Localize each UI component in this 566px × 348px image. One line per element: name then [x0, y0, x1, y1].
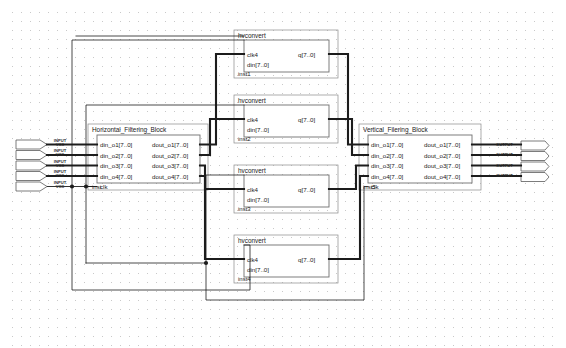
input-pin-2-power: VCC: [48, 153, 72, 157]
input-pin-5-power: VCC: [48, 185, 72, 189]
horizontal-output-2: dout_o2[7..0]: [152, 152, 188, 159]
input-pin-4-power: VCC: [48, 174, 72, 178]
vertical-input-3: din_o3[7..0]: [371, 162, 403, 169]
clock-junction-dots: [70, 184, 208, 265]
hvconvert-4-instance: inst4: [238, 276, 251, 283]
output-pin-3-type: OUTPUT: [496, 164, 513, 168]
horizontal-block-instance: inst: [92, 184, 101, 191]
schematic-canvas: INPUT VCC INPUT VCC INPUT VCC INPUT VCC …: [0, 0, 566, 348]
vertical-input-2: din_o2[7..0]: [371, 152, 403, 159]
hvconvert-1-input-clk4: clk4: [247, 51, 258, 58]
output-pin-1-type: OUTPUT: [496, 143, 513, 147]
hvconvert-2-input-din: din[7..0]: [247, 126, 269, 133]
horizontal-input-3: din_o3[7..0]: [100, 162, 132, 169]
hvconvert-3-title: hvconvert: [238, 167, 266, 174]
horizontal-output-4: dout_o4[7..0]: [152, 173, 188, 180]
hvconvert-1-input-din: din[7..0]: [247, 61, 269, 68]
hvconvert-1-output-q: q[7..0]: [298, 51, 315, 58]
output-pin-4-type: OUTPUT: [496, 174, 513, 178]
output-pin-shapes: [521, 141, 549, 182]
hvconvert-to-vertical-buses: [329, 54, 368, 259]
hvconvert-3-input-clk4: clk4: [247, 186, 258, 193]
vertical-block-title: Vertical_Filering_Block: [363, 126, 428, 133]
vertical-to-output-buses: [472, 145, 521, 177]
input-pin-3-power: VCC: [48, 164, 72, 168]
hvconvert-2-instance: inst2: [238, 136, 251, 143]
input-pin-shapes: [16, 140, 47, 191]
schematic-drawing: [0, 0, 566, 348]
horizontal-to-hvconvert-buses: [200, 54, 244, 259]
hvconvert-4-input-clk4: clk4: [247, 256, 258, 263]
horizontal-input-2: din_o2[7..0]: [100, 152, 132, 159]
hvconvert-4-input-din: din[7..0]: [247, 266, 269, 273]
vertical-input-1: din_o1[7..0]: [371, 141, 403, 148]
hvconvert-3-output-q: q[7..0]: [298, 186, 315, 193]
vertical-output-3: dout_o3[7..0]: [424, 162, 460, 169]
hvconvert-2-title: hvconvert: [238, 97, 266, 104]
hvconvert-4-output-q: q[7..0]: [298, 256, 315, 263]
horizontal-block-title: Horizontal_Filtering_Block: [92, 126, 166, 133]
hvconvert-3-input-din: din[7..0]: [247, 196, 269, 203]
horizontal-output-3: dout_o3[7..0]: [152, 162, 188, 169]
hvconvert-2-input-clk4: clk4: [247, 116, 258, 123]
hvconvert-1-instance: inst1: [238, 71, 251, 78]
hvconvert-2-output-q: q[7..0]: [298, 116, 315, 123]
hvconvert-4-title: hvconvert: [238, 237, 266, 244]
vertical-output-2: dout_o2[7..0]: [424, 152, 460, 159]
input-pin-1-power: VCC: [48, 143, 72, 147]
hvconvert-3-instance: inst3: [238, 206, 251, 213]
horizontal-input-1: din_o1[7..0]: [100, 141, 132, 148]
vertical-block-instance: inst5: [363, 184, 376, 191]
output-pin-2-type: OUTPUT: [496, 153, 513, 157]
vertical-output-1: dout_o1[7..0]: [424, 141, 460, 148]
vertical-input-4: din_o4[7..0]: [371, 173, 403, 180]
horizontal-input-4: din_o4[7..0]: [100, 173, 132, 180]
horizontal-output-1: dout_o1[7..0]: [152, 141, 188, 148]
vertical-output-4: dout_o4[7..0]: [424, 173, 460, 180]
hvconvert-1-title: hvconvert: [238, 32, 266, 39]
